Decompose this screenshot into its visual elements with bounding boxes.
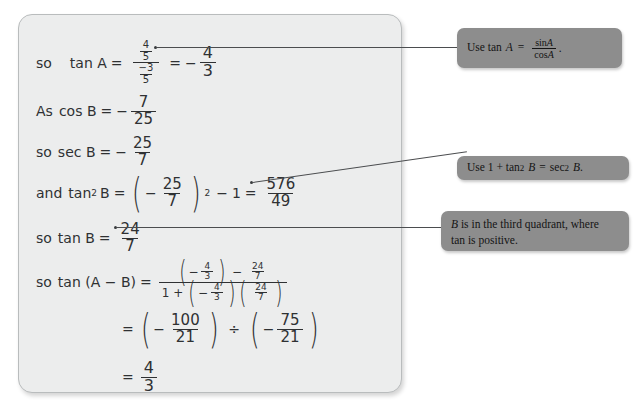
callout-line-1-text: is in the third quadrant, where	[461, 218, 599, 230]
divide-sign: ÷	[228, 321, 240, 337]
callout-text-lead: Use tan	[467, 40, 502, 56]
num-b-denominator: 7	[252, 271, 264, 281]
right-denominator: 21	[277, 329, 302, 346]
right-numerator: 75	[277, 313, 302, 329]
equals-sign: =	[114, 185, 126, 201]
equals-sign-2: =	[245, 185, 257, 201]
equals-sign: =	[140, 274, 152, 290]
cos-var: A	[548, 49, 554, 60]
final-denominator: 3	[141, 377, 157, 395]
final-fraction: 4 3	[141, 360, 157, 395]
equals-sign: =	[122, 369, 134, 385]
numerator-bottom: 5	[140, 51, 152, 63]
callout-equals: =	[518, 40, 525, 56]
left-denominator: 21	[173, 329, 198, 346]
equation-line-tan-a-minus-b: so tan (A − B) = ( − 4 3 ) − 24 7 1 + ( …	[36, 262, 290, 303]
num-a-numerator: 4	[201, 262, 213, 271]
callout-fraction: sinA cosA	[532, 37, 555, 60]
compound-fraction: ( − 4 3 ) − 24 7 1 + ( − 4 3 ) ( 24	[159, 262, 288, 303]
callout-quadrant-line-2: tan is positive.	[451, 233, 619, 249]
right-sign: −	[263, 321, 275, 337]
leader-line-tan-identity	[157, 47, 457, 48]
one-term: 1	[232, 185, 241, 201]
numerator-fraction: 4 5	[137, 40, 155, 62]
paren-sign: −	[145, 185, 157, 201]
callout-text-b: sec	[550, 160, 565, 176]
denominator-fraction: −3 5	[133, 62, 160, 85]
fraction-numerator: 24	[118, 222, 143, 238]
paren-denominator: 7	[164, 193, 180, 210]
right-fraction: 75 21	[277, 313, 302, 346]
callout-period: .	[580, 160, 583, 176]
expression-lhs: tan B	[58, 230, 95, 246]
den-b-fraction: 24 7	[252, 283, 269, 303]
equals-sign: =	[122, 321, 134, 337]
paren-fraction: 25 7	[160, 177, 185, 210]
equals-sign: =	[101, 103, 113, 119]
numerator-top: 4	[140, 40, 152, 51]
fraction-denominator: 25	[131, 111, 156, 128]
num-b-numerator: 24	[249, 262, 266, 271]
expression-lhs: tan A	[70, 55, 107, 71]
fraction-numerator: 25	[130, 136, 155, 152]
callout-var-a: B	[528, 160, 535, 176]
equation-line-divide: = ( − 100 21 ) ÷ ( − 75 21 )	[118, 313, 321, 346]
callout-quadrant-line-1: B is in the third quadrant, where	[451, 217, 619, 233]
result-sign: −	[185, 55, 197, 71]
fraction: 25 7	[130, 136, 155, 169]
expression-lhs: cos B	[59, 103, 97, 119]
callout-equals: =	[539, 160, 546, 176]
equals-sign: =	[99, 230, 111, 246]
result-fraction: 4 3	[200, 45, 216, 80]
sin-var: A	[547, 37, 553, 48]
fraction-denominator: 7	[122, 238, 138, 255]
equation-line-final-answer: = 4 3	[118, 360, 160, 395]
leader-line-quadrant	[117, 227, 447, 228]
negative-sign: −	[115, 144, 127, 160]
callout-text-a: Use 1 + tan	[467, 160, 520, 176]
expression-lhs: tan (A − B)	[58, 274, 136, 290]
negative-sign: −	[116, 103, 128, 119]
equals-sign: =	[111, 55, 123, 71]
left-sign: −	[153, 321, 165, 337]
callout-pythagorean-identity: Use 1 + tan 2 B = sec 2 B .	[457, 156, 629, 180]
line-label: As	[36, 103, 53, 119]
line-label: and	[36, 185, 62, 201]
num-a-fraction: 4 3	[201, 262, 213, 282]
variable-b: B	[100, 185, 110, 201]
final-numerator: 4	[141, 360, 157, 377]
callout-tan-identity: Use tan A = sinA cosA .	[457, 28, 622, 68]
result-fraction: 576 49	[264, 177, 299, 210]
callout-fraction-numerator: sinA	[533, 37, 555, 48]
equation-line-sec-b: so sec B = − 25 7	[36, 136, 158, 169]
fraction-numerator: 7	[136, 95, 152, 111]
callout-quadrant: B is in the third quadrant, where tan is…	[441, 211, 629, 251]
equation-line-tan2-b: and tan 2 B = ( − 25 7 ) 2 − 1 = 576 49	[36, 177, 301, 210]
den-b-numerator: 24	[252, 283, 269, 292]
equals-sign: =	[100, 144, 112, 160]
line-label: so	[36, 55, 52, 71]
callout-fraction-denominator: cosA	[532, 48, 555, 60]
fraction: 7 25	[131, 95, 156, 128]
sin-label: sin	[535, 37, 547, 48]
expression-lhs: sec B	[58, 144, 96, 160]
callout-var-b: B	[451, 218, 458, 230]
callout-var-a: A	[506, 40, 513, 56]
minus-sign: −	[216, 185, 228, 201]
line-label: so	[36, 230, 52, 246]
num-b-fraction: 24 7	[249, 262, 266, 282]
result-denominator: 3	[200, 62, 216, 80]
result-denominator: 49	[268, 193, 293, 210]
line-label: so	[36, 274, 52, 290]
callout-var-b: B	[573, 160, 580, 176]
paren-numerator: 25	[160, 177, 185, 193]
denominator-bottom: 5	[140, 74, 152, 86]
denominator-top: −3	[136, 63, 157, 74]
line-label: so	[36, 144, 52, 160]
den-a-sign: −	[198, 287, 208, 300]
equation-line-cos-b: As cos B = − 7 25	[36, 95, 159, 128]
fraction-denominator: 7	[135, 152, 151, 169]
den-b-denominator: 7	[255, 292, 267, 302]
den-a-denominator: 3	[211, 292, 223, 302]
expression-lhs: tan	[68, 185, 91, 201]
